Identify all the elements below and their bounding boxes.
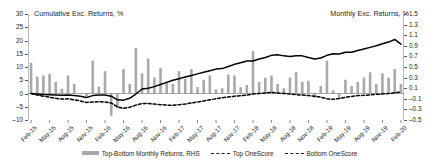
left-axis-tick-mark	[25, 80, 28, 81]
left-axis-tick-mark	[25, 67, 28, 68]
left-axis-tick-label: –10	[1, 116, 23, 123]
right-axis-tick-mark	[404, 88, 407, 89]
bar	[104, 71, 107, 93]
right-axis-tick-mark	[404, 99, 407, 100]
bar	[332, 90, 335, 93]
right-axis-tick-label: –0.3	[409, 105, 431, 112]
bar	[270, 75, 273, 93]
right-axis-tick-mark	[404, 109, 407, 110]
left-axis-tick-label: 30	[1, 10, 23, 17]
bar	[326, 61, 329, 94]
left-axis-tick-mark	[25, 54, 28, 55]
bar	[307, 81, 310, 94]
bar	[190, 69, 193, 93]
left-axis-tick-mark	[25, 107, 28, 108]
bar	[301, 82, 304, 94]
right-axis-tick-label: 1.3	[409, 21, 431, 28]
bar	[42, 75, 45, 93]
right-axis-tick-mark	[404, 46, 407, 47]
right-axis-tick-label: 0.5	[409, 63, 431, 70]
bar	[375, 84, 378, 94]
right-axis-tick-label: 1.1	[409, 31, 431, 38]
bar	[221, 88, 224, 93]
bar	[91, 61, 94, 94]
legend-label: Top-Bottom Monthly Returns, RHS	[102, 150, 200, 157]
bar	[159, 68, 162, 93]
bar	[295, 72, 298, 93]
left-axis-tick-label: 20	[1, 37, 23, 44]
right-axis-tick-label: 0.1	[409, 84, 431, 91]
right-axis-tick-mark	[404, 67, 407, 68]
left-axis-tick-label: 10	[1, 63, 23, 70]
bar	[122, 69, 125, 93]
left-axis-tick-mark	[25, 94, 28, 95]
left-axis-tick-label: –5	[1, 103, 23, 110]
bar	[184, 79, 187, 94]
bar	[319, 86, 322, 93]
right-axis-tick-label: 1.5	[409, 10, 431, 17]
left-axis-tick-mark	[25, 27, 28, 28]
right-axis-tick-label: 0.3	[409, 74, 431, 81]
bar	[209, 75, 212, 93]
left-axis-tick-mark	[25, 14, 28, 15]
bar	[227, 74, 230, 93]
left-axis-tick-mark	[25, 41, 28, 42]
bar	[48, 74, 51, 94]
bar	[135, 48, 138, 94]
left-axis-tick-label: 5	[1, 76, 23, 83]
bar	[233, 75, 236, 93]
right-axis-tick-mark	[404, 14, 407, 15]
legend-item[interactable]: Top OneScore	[211, 150, 274, 157]
left-axis-tick-label: 25	[1, 23, 23, 30]
bar	[393, 69, 396, 93]
bar	[61, 89, 64, 94]
chart-container: Cumulative Exc. Returns, % Monthly Exc. …	[0, 0, 439, 164]
right-axis-tick-mark	[404, 78, 407, 79]
bar	[239, 87, 242, 93]
bar	[387, 78, 390, 94]
bar	[172, 84, 175, 94]
bar	[128, 84, 131, 94]
chart-svg	[28, 14, 404, 126]
bar	[369, 72, 372, 93]
right-axis-tick-label: –0.5	[409, 116, 431, 123]
left-axis-tick-label: 0	[1, 90, 23, 97]
bar	[98, 87, 101, 94]
bar	[252, 51, 255, 93]
bar	[67, 75, 70, 93]
plot-area	[28, 14, 404, 120]
bar-series	[30, 48, 402, 116]
right-axis-tick-mark	[404, 25, 407, 26]
bar	[178, 71, 181, 93]
bar	[381, 73, 384, 93]
bar	[85, 94, 88, 97]
bar	[363, 78, 366, 94]
left-axis-tick-mark	[25, 120, 28, 121]
bar	[196, 87, 199, 93]
legend-label: Bottom OneScore	[307, 150, 358, 157]
bar	[400, 84, 403, 94]
bar	[30, 63, 33, 94]
bar	[289, 78, 292, 94]
bar	[215, 89, 218, 93]
right-axis-tick-mark	[404, 35, 407, 36]
bar	[258, 82, 261, 94]
bar	[246, 85, 249, 93]
right-axis-tick-label: 0.7	[409, 52, 431, 59]
right-axis-tick-label: 0.9	[409, 42, 431, 49]
right-axis-tick-label: –0.1	[409, 95, 431, 102]
bar	[344, 80, 347, 94]
bar	[36, 77, 39, 94]
bar	[165, 82, 168, 94]
bar	[350, 86, 353, 93]
bar	[202, 80, 205, 94]
bar	[73, 84, 76, 94]
left-axis-tick-label: 15	[1, 50, 23, 57]
right-axis-tick-mark	[404, 56, 407, 57]
right-axis-tick-mark	[404, 120, 407, 121]
bar	[356, 82, 359, 94]
bar	[264, 78, 267, 94]
bar	[276, 84, 279, 94]
bar	[54, 82, 57, 94]
